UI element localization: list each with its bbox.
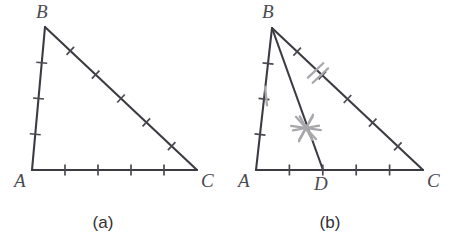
vertex-label-B-panel-b: B [262, 1, 274, 22]
vertex-label-C-panel-b: C [427, 170, 440, 191]
panel-captions: (a)(b) [93, 213, 341, 232]
geometry-figure: ABC ABCD (a)(b) [0, 0, 453, 246]
tick-mark-AB-panel-a-3 [36, 62, 47, 63]
vertex-label-C-panel-a: C [201, 170, 214, 191]
gray-single-tick-on-AB-stroke-1 [265, 87, 267, 106]
vertex-label-B-panel-a: B [36, 1, 48, 22]
vertex-label-A-panel-a: A [12, 170, 26, 191]
panel-b: ABCD [236, 1, 440, 194]
figure-canvas: ABC ABCD (a)(b) [0, 0, 453, 246]
panel-a: ABC [12, 1, 214, 191]
caption-a: (a) [93, 213, 114, 232]
vertex-label-A-panel-b: A [236, 170, 250, 191]
cevian-BD [272, 28, 323, 170]
tick-mark-AB-panel-a-1 [30, 134, 41, 135]
tick-mark-AB-panel-b-1 [255, 134, 266, 135]
tick-mark-AB-panel-a-2 [33, 98, 44, 99]
tick-mark-AB-panel-b-2 [259, 98, 270, 99]
vertex-label-D-panel-b: D [313, 173, 328, 194]
tick-mark-AB-panel-b-3 [263, 63, 274, 64]
caption-b: (b) [320, 213, 341, 232]
